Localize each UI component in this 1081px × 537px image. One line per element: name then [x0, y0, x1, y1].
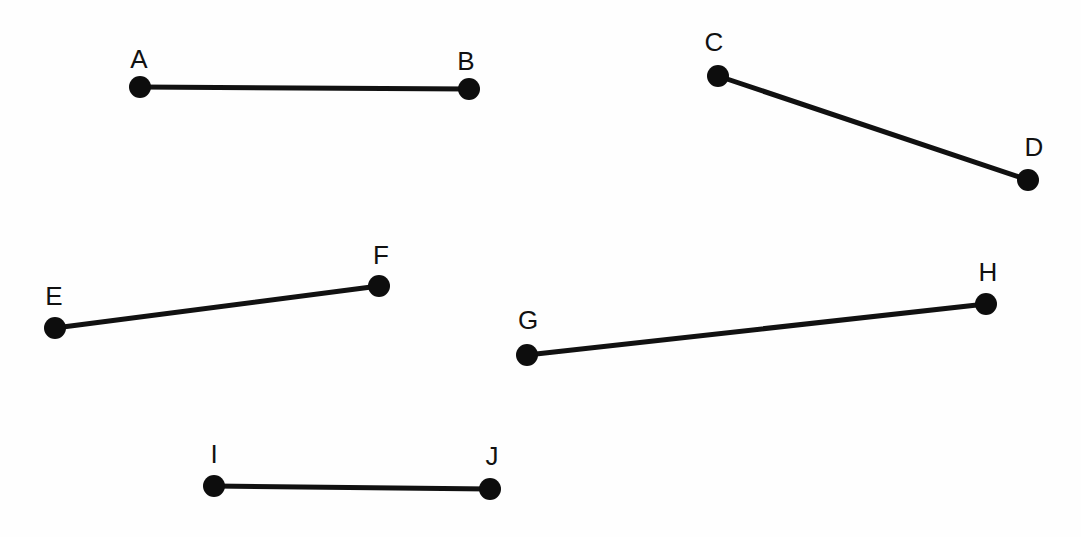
point-b — [458, 78, 480, 100]
label-a: A — [130, 44, 148, 74]
diagram-svg: A B C D E F G H — [0, 0, 1081, 537]
point-j — [479, 478, 501, 500]
segment-gh-line — [527, 304, 986, 355]
point-h — [975, 293, 997, 315]
point-g — [516, 344, 538, 366]
segment-cd-line — [718, 76, 1028, 180]
point-e — [44, 317, 66, 339]
label-b: B — [457, 46, 474, 76]
label-c: C — [705, 27, 724, 57]
segment-cd: C D — [705, 27, 1044, 191]
label-e: E — [45, 281, 62, 311]
label-g: G — [518, 305, 538, 335]
segment-ef: E F — [44, 240, 390, 339]
label-f: F — [373, 240, 389, 270]
label-h: H — [979, 257, 998, 287]
point-a — [129, 76, 151, 98]
point-f — [368, 275, 390, 297]
segment-ij: I J — [203, 439, 501, 500]
point-d — [1017, 169, 1039, 191]
label-j: J — [486, 441, 499, 471]
label-i: I — [210, 439, 217, 469]
point-i — [203, 475, 225, 497]
segment-ab: A B — [129, 44, 480, 100]
segment-diagram: A B C D E F G H — [0, 0, 1081, 537]
point-c — [707, 65, 729, 87]
segment-ab-line — [140, 87, 469, 89]
label-d: D — [1025, 132, 1044, 162]
segment-ef-line — [55, 286, 379, 328]
segment-gh: G H — [516, 257, 997, 366]
segment-ij-line — [214, 486, 490, 489]
